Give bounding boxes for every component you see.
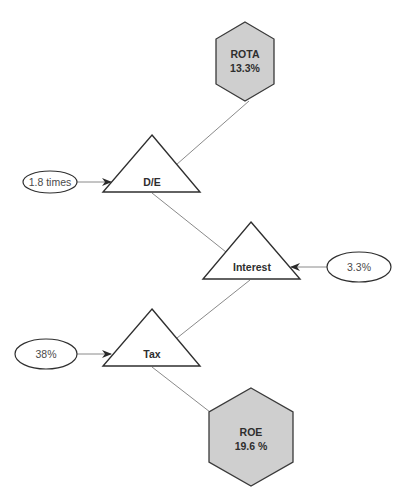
roe-driver-diagram: ROTA 13.3% D/E Interest Tax ROE 19.6 % 1… (0, 0, 408, 496)
tax-input: 38% (15, 339, 77, 369)
connector-de-interest (152, 193, 226, 252)
interest-node: Interest (203, 222, 300, 279)
connector-tax-roe (152, 367, 210, 412)
connector-interest-tax (177, 280, 250, 338)
rota-node: ROTA 13.3% (216, 22, 274, 101)
interest-input: 3.3% (327, 252, 391, 282)
rota-value: 13.3% (230, 62, 260, 74)
roe-label: ROE (240, 426, 263, 438)
interest-label: Interest (233, 261, 271, 273)
de-label: D/E (143, 176, 161, 188)
connector-rota-de (176, 101, 249, 165)
de-input: 1.8 times (23, 171, 77, 193)
roe-value: 19.6 % (235, 440, 268, 452)
tax-node: Tax (103, 309, 200, 366)
interest-input-value: 3.3% (347, 261, 371, 273)
roe-node: ROE 19.6 % (209, 388, 293, 486)
de-input-value: 1.8 times (29, 176, 72, 188)
rota-label: ROTA (231, 48, 260, 60)
de-node: D/E (103, 135, 200, 192)
tax-label: Tax (143, 348, 160, 360)
tax-input-value: 38% (35, 348, 56, 360)
